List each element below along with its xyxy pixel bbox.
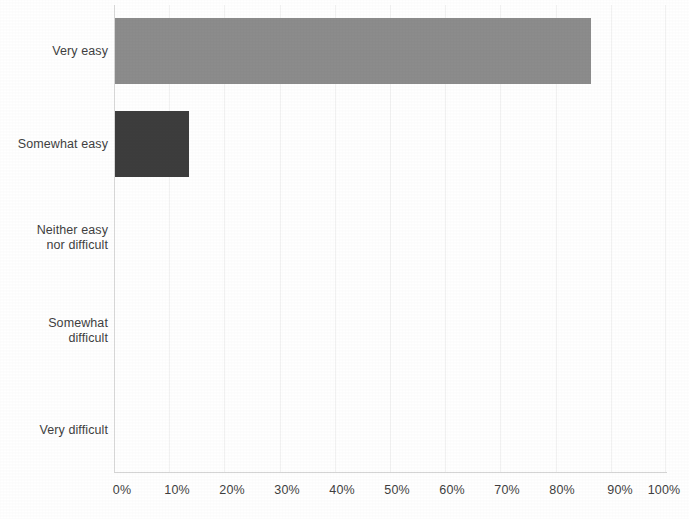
tick-label-90: 90% xyxy=(607,482,632,498)
tick-label-0: 0% xyxy=(113,482,131,498)
y-axis-line xyxy=(114,5,115,472)
bar-band-very-easy xyxy=(114,18,666,84)
tick-label-70: 70% xyxy=(494,482,519,498)
category-label-somewhat-difficult: Somewhat difficult xyxy=(2,316,108,346)
bar-chart: Very easy Somewhat easy Neither easy nor… xyxy=(0,0,689,519)
bar-band-somewhat-difficult xyxy=(114,297,666,363)
category-label-somewhat-easy: Somewhat easy xyxy=(2,137,108,152)
bar-very-easy[interactable] xyxy=(114,18,591,84)
category-label-very-easy: Very easy xyxy=(2,44,108,59)
tick-label-100: 100% xyxy=(648,482,680,498)
category-axis-labels: Very easy Somewhat easy Neither easy nor… xyxy=(0,0,108,519)
x-axis-line xyxy=(114,472,667,473)
bar-band-neither xyxy=(114,204,666,270)
bar-band-very-difficult xyxy=(114,390,666,456)
tick-label-50: 50% xyxy=(384,482,409,498)
tick-label-30: 30% xyxy=(274,482,299,498)
tick-label-20: 20% xyxy=(219,482,244,498)
tick-label-40: 40% xyxy=(329,482,354,498)
plot-area xyxy=(114,5,666,472)
tick-label-10: 10% xyxy=(164,482,189,498)
x-axis-tick-labels: 0% 10% 20% 30% 40% 50% 60% 70% 80% 90% 1… xyxy=(0,482,689,506)
tick-label-80: 80% xyxy=(549,482,574,498)
tick-label-60: 60% xyxy=(439,482,464,498)
category-label-very-difficult: Very difficult xyxy=(2,423,108,438)
bar-somewhat-easy[interactable] xyxy=(114,111,189,177)
category-label-neither-easy-nor-difficult: Neither easy nor difficult xyxy=(2,223,108,253)
bar-band-somewhat-easy xyxy=(114,111,666,177)
